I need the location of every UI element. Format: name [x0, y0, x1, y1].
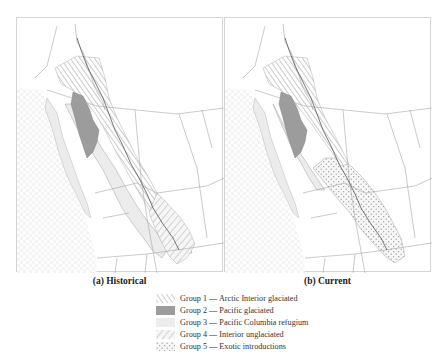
legend-label: Group 3 — Pacific Columbia refugium [180, 318, 308, 327]
legend-label: Group 5 — Exotic introductions [180, 342, 286, 351]
legend-item-group1: Group 1 — Arctic Interior glaciated [156, 292, 356, 304]
map-historical [17, 18, 224, 273]
caption-current: (b) Current [224, 276, 431, 286]
legend-item-group4: Group 4 — Interior unglaciated [156, 328, 356, 340]
swatch-stipple-icon [156, 342, 175, 351]
map-panel-current [224, 17, 431, 272]
swatch-diagonal-hatch-icon [156, 294, 175, 303]
map-legend: Group 1 — Arctic Interior glaciated Grou… [156, 292, 356, 352]
map-panel-historical [16, 17, 223, 272]
swatch-diagonal-hatch-left-icon [156, 330, 175, 339]
legend-item-group3: Group 3 — Pacific Columbia refugium [156, 316, 356, 328]
legend-item-group5: Group 5 — Exotic introductions [156, 340, 356, 352]
group5-region [313, 158, 405, 263]
map-current [225, 18, 432, 273]
swatch-solid-fill-icon [156, 306, 175, 315]
legend-label: Group 4 — Interior unglaciated [180, 330, 284, 339]
caption-historical: (a) Historical [16, 276, 223, 286]
legend-item-group2: Group 2 — Pacific glaciated [156, 304, 356, 316]
swatch-light-fill-icon [156, 318, 175, 327]
legend-label: Group 1 — Arctic Interior glaciated [180, 294, 298, 303]
legend-label: Group 2 — Pacific glaciated [180, 306, 274, 315]
